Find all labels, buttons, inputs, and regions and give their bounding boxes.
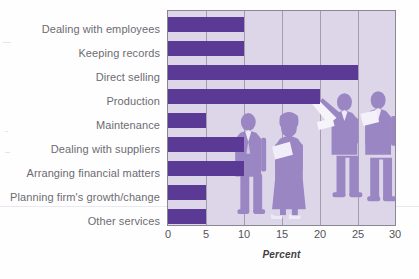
category-label: Dealing with employees [0, 23, 160, 35]
x-axis-title: Percent [167, 249, 396, 260]
bar-dealing-with-suppliers [168, 137, 244, 152]
category-label: Keeping records [0, 47, 160, 59]
category-label: Other services [0, 215, 160, 227]
bar-maintenance [168, 113, 206, 128]
category-label: Arranging financial matters [0, 167, 160, 179]
x-tick-label: 15 [276, 228, 288, 240]
x-axis-ticks: 0 5 10 15 20 25 30 [167, 226, 396, 248]
bar-keeping-records [168, 41, 244, 56]
bar-other-services [168, 209, 206, 224]
bar-arranging-financial-matters [168, 161, 244, 176]
plot-area [167, 10, 396, 226]
bar-production [168, 89, 320, 104]
bar-planning-firms-growth-change [168, 185, 206, 200]
category-label: Production [0, 95, 160, 107]
x-tick-label: 5 [203, 228, 209, 240]
x-tick-label: 30 [389, 228, 401, 240]
chart-figure: Dealing with employees Keeping records D… [0, 0, 419, 279]
bar-direct-selling [168, 65, 358, 80]
x-tick-label: 20 [314, 228, 326, 240]
x-tick-label: 25 [352, 228, 364, 240]
x-tick-label: 0 [165, 228, 171, 240]
category-label: Dealing with suppliers [0, 143, 160, 155]
category-label: Direct selling [0, 71, 160, 83]
bar-series [168, 11, 395, 225]
category-label: Planning firm's growth/change [0, 191, 160, 203]
x-tick-label: 10 [238, 228, 250, 240]
category-label: Maintenance [0, 119, 160, 131]
category-axis-labels: Dealing with employees Keeping records D… [0, 10, 163, 226]
bar-dealing-with-employees [168, 17, 244, 32]
